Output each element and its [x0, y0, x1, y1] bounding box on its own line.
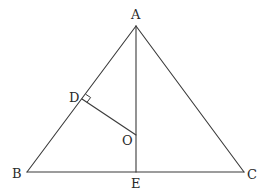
label-b: B [12, 166, 22, 181]
label-a: A [130, 7, 141, 22]
geometry-diagram: A B C D O E [0, 0, 263, 192]
label-d: D [69, 90, 79, 105]
label-e: E [131, 176, 141, 191]
label-o: O [122, 133, 133, 148]
right-angle-marker-d [86, 94, 91, 102]
label-c: C [247, 167, 257, 182]
segment-do [82, 99, 136, 135]
diagram-svg: A B C D O E [0, 0, 263, 192]
segment-ac [136, 26, 244, 172]
